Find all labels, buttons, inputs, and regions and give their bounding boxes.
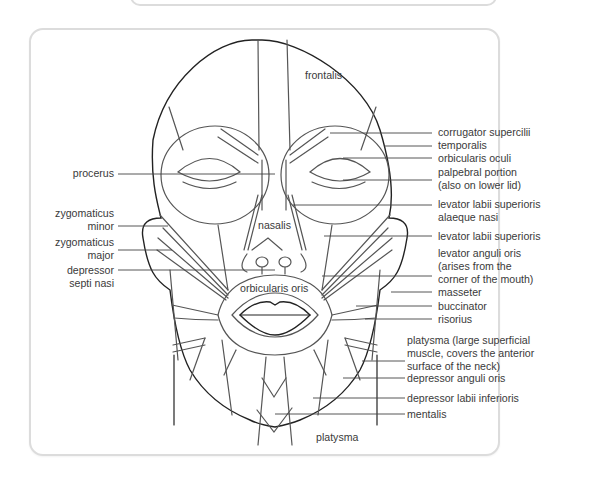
label-procerus: procerus [60,167,114,180]
head-outline [142,40,407,427]
label-platysma: platysma (large superficial muscle, cove… [407,334,534,373]
label-levator-labii-superioris-alaeque-nasi: levator labii superioris alaeque nasi [438,198,540,224]
label-orbicularis-oculi: orbicularis oculi [438,152,511,165]
label-depressor-labii-inferioris: depressor labii inferioris [407,392,519,405]
label-palpebral-portion: palpebral portion (also on lower lid) [438,166,521,192]
label-depressor-septi-nasi: depressor septi nasi [40,264,114,290]
label-corrugator-supercilii: corrugator supercilii [438,126,530,139]
label-levator-labii-superioris: levator labii superioris [438,230,540,243]
label-temporalis: temporalis [438,139,487,152]
label-orbicularis-oris: orbicularis oris [240,282,308,295]
label-risorius: risorius [438,313,472,326]
label-levator-anguli-oris: levator anguli oris (arises from the cor… [438,247,533,286]
label-platysma-bottom: platysma [316,431,358,444]
label-zygomaticus-major: zygomaticus major [40,236,114,262]
label-masseter: masseter [438,286,482,299]
label-buccinator: buccinator [438,300,487,313]
label-zygomaticus-minor: zygomaticus minor [40,207,114,233]
label-mentalis: mentalis [407,408,446,421]
label-nasalis: nasalis [258,219,291,232]
label-frontalis: frontalis [305,69,342,82]
label-depressor-anguli-oris: depressor anguli oris [407,372,505,385]
